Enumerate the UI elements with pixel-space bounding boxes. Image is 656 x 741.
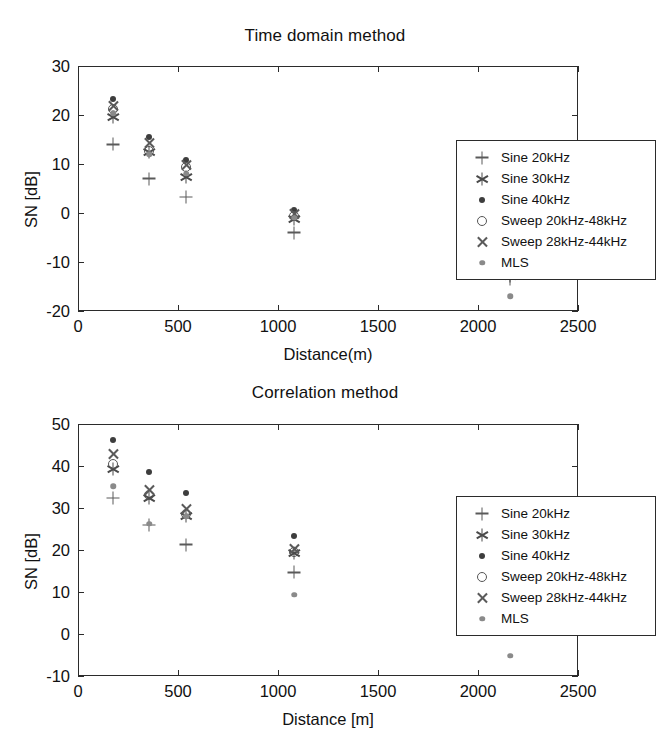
x-tick (578, 670, 579, 676)
legend-label: Sweep 20kHz-48kHz (501, 214, 627, 228)
plus-marker (476, 507, 489, 520)
y-tick-label: 20 (20, 106, 70, 125)
y-tick-label: 40 (20, 457, 70, 476)
x-tick-top (578, 66, 579, 72)
y-tick (78, 550, 84, 551)
y-tick (78, 164, 84, 165)
legend-symbol (463, 524, 501, 545)
legend-symbol (463, 231, 501, 252)
x-tick (578, 305, 579, 311)
x-tick-label: 2000 (460, 317, 497, 336)
legend-item[interactable]: Sine 20kHz (463, 503, 645, 524)
plot-area-bottom: 0500100015002000250050403020100-10 Sine … (78, 424, 578, 676)
y-tick-right (572, 311, 578, 312)
y-tick-label: 50 (20, 415, 70, 434)
legend-item[interactable]: Sine 40kHz (463, 545, 645, 566)
y-tick-right (572, 115, 578, 116)
legend-label: MLS (501, 256, 529, 270)
x-tick-top (178, 424, 179, 430)
legend-top: Sine 20kHzSine 30kHzSine 40kHzSweep 20kH… (456, 140, 656, 280)
figure-correlation-method: Correlation method 050010001500200025005… (0, 378, 650, 741)
legend-item[interactable]: Sweep 28kHz-44kHz (463, 587, 645, 608)
legend-label: Sine 40kHz (501, 193, 570, 207)
x-tick-label: 1000 (260, 317, 297, 336)
y-tick (78, 311, 84, 312)
x-tick (278, 305, 279, 311)
x-tick-top (278, 66, 279, 72)
y-tick (78, 676, 84, 677)
dot-marker (479, 553, 485, 559)
y-tick (78, 634, 84, 635)
star-marker (476, 172, 489, 185)
y-tick-label: -10 (20, 253, 70, 272)
legend-item[interactable]: Sine 40kHz (463, 189, 645, 210)
legend-item[interactable]: Sine 20kHz (463, 147, 645, 168)
x-tick-label: 2500 (560, 682, 597, 701)
y-tick-right (572, 424, 578, 425)
x-tick-label: 0 (73, 317, 82, 336)
circle-marker (477, 572, 487, 582)
legend-symbol (463, 168, 501, 189)
y-tick-label: -20 (20, 302, 70, 321)
legend-symbol (463, 189, 501, 210)
x-axis-title-top: Distance(m) (78, 345, 578, 364)
mls-dot-marker (479, 616, 485, 622)
legend-item[interactable]: Sine 30kHz (463, 168, 645, 189)
legend-bottom: Sine 20kHzSine 30kHzSine 40kHzSweep 20kH… (456, 496, 656, 636)
y-tick-label: 30 (20, 57, 70, 76)
cross-marker (476, 591, 489, 604)
x-tick-label: 1000 (260, 682, 297, 701)
y-tick-label: -10 (20, 667, 70, 686)
x-tick (178, 305, 179, 311)
y-tick-right (572, 676, 578, 677)
y-axis-title-bottom: SN [dB] (22, 533, 41, 590)
x-tick (378, 670, 379, 676)
legend-symbol (463, 608, 501, 629)
x-tick (178, 670, 179, 676)
plus-marker (476, 151, 489, 164)
x-tick (278, 670, 279, 676)
x-tick-top (578, 424, 579, 430)
y-tick-label: 0 (20, 625, 70, 644)
legend-label: MLS (501, 612, 529, 626)
x-tick-top (478, 66, 479, 72)
circle-marker (477, 216, 487, 226)
x-tick (478, 305, 479, 311)
x-tick-label: 1500 (360, 682, 397, 701)
legend-item[interactable]: MLS (463, 608, 645, 629)
legend-label: Sine 40kHz (501, 549, 570, 563)
legend-item[interactable]: Sweep 20kHz-48kHz (463, 566, 645, 587)
y-tick (78, 213, 84, 214)
y-tick (78, 592, 84, 593)
x-tick (378, 305, 379, 311)
y-tick-right (572, 466, 578, 467)
x-tick-top (378, 424, 379, 430)
star-marker (476, 528, 489, 541)
legend-label: Sine 20kHz (501, 151, 570, 165)
chart-title-bottom: Correlation method (0, 383, 650, 403)
legend-item[interactable]: MLS (463, 252, 645, 273)
legend-symbol (463, 545, 501, 566)
legend-item[interactable]: Sweep 20kHz-48kHz (463, 210, 645, 231)
mls-dot-marker (479, 260, 485, 266)
x-axis-title-bottom: Distance [m] (78, 710, 578, 729)
legend-symbol (463, 566, 501, 587)
y-tick-label: 30 (20, 499, 70, 518)
y-tick (78, 466, 84, 467)
legend-label: Sweep 20kHz-48kHz (501, 570, 627, 584)
legend-label: Sine 30kHz (501, 528, 570, 542)
y-tick (78, 508, 84, 509)
legend-item[interactable]: Sweep 28kHz-44kHz (463, 231, 645, 252)
plot-area-top: 050010001500200025003020100-10-20 Sine 2… (78, 66, 578, 311)
x-tick-label: 2000 (460, 682, 497, 701)
x-tick-top (478, 424, 479, 430)
cross-marker (476, 235, 489, 248)
legend-label: Sine 30kHz (501, 172, 570, 186)
legend-symbol (463, 147, 501, 168)
y-tick-right (572, 66, 578, 67)
legend-item[interactable]: Sine 30kHz (463, 524, 645, 545)
legend-symbol (463, 503, 501, 524)
legend-symbol (463, 587, 501, 608)
chart-title-top: Time domain method (0, 26, 650, 46)
x-tick-label: 500 (164, 317, 192, 336)
